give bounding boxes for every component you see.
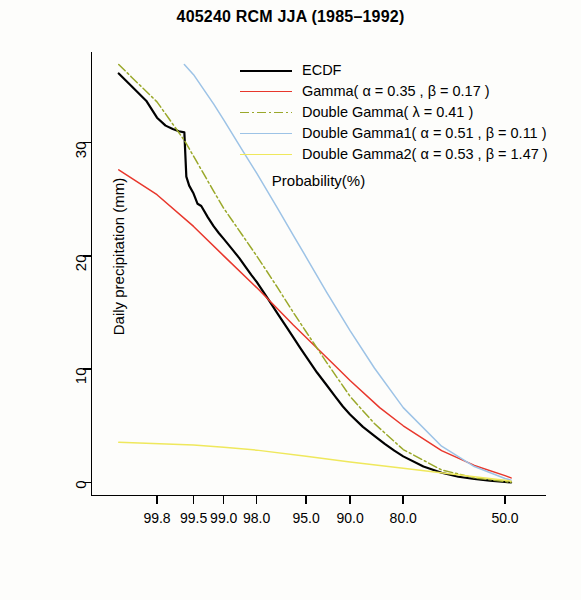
- y-tick-label: 20: [72, 254, 89, 294]
- x-tick-mark: [223, 496, 225, 504]
- x-tick-mark: [504, 496, 506, 504]
- legend-color-swatch: [240, 149, 292, 161]
- legend-label: Gamma( α = 0.35 , β = 0.17 ): [302, 81, 490, 102]
- chart-legend: ECDFGamma( α = 0.35 , β = 0.17 )Double G…: [240, 60, 548, 165]
- legend-label: ECDF: [302, 60, 341, 81]
- legend-item: Double Gamma( λ = 0.41 ): [240, 102, 548, 123]
- x-tick-label: 90.0: [320, 510, 380, 526]
- x-tick-mark: [256, 496, 258, 504]
- series-line: [119, 170, 511, 478]
- legend-label: Double Gamma2( α = 0.53 , β = 1.47 ): [302, 144, 548, 165]
- x-tick-mark: [193, 496, 195, 504]
- x-tick-mark: [156, 496, 158, 504]
- legend-color-swatch: [240, 128, 292, 140]
- plot-area: 99.899.599.098.095.090.080.050.0 0102030…: [91, 52, 546, 496]
- legend-item: Double Gamma2( α = 0.53 , β = 1.47 ): [240, 144, 548, 165]
- y-tick-label: 10: [72, 368, 89, 408]
- legend-label: Double Gamma( λ = 0.41 ): [302, 102, 473, 123]
- x-axis-label: Probability(%): [91, 172, 546, 189]
- x-tick-mark: [305, 496, 307, 504]
- legend-color-swatch: [240, 107, 292, 119]
- y-tick-label: 30: [72, 141, 89, 181]
- chart-container: 405240 RCM JJA (1985–1992) 99.899.599.09…: [0, 0, 581, 600]
- x-tick-mark: [402, 496, 404, 504]
- x-tick-label: 80.0: [373, 510, 433, 526]
- legend-item: Double Gamma1( α = 0.51 , β = 0.11 ): [240, 123, 548, 144]
- legend-color-swatch: [240, 65, 292, 77]
- y-axis-label: Daily precipitation (mm): [110, 57, 127, 457]
- x-tick-mark: [349, 496, 351, 504]
- chart-title: 405240 RCM JJA (1985–1992): [0, 8, 581, 26]
- legend-item: ECDF: [240, 60, 548, 81]
- x-tick-label: 50.0: [475, 510, 535, 526]
- y-tick-label: 0: [72, 481, 89, 521]
- legend-color-swatch: [240, 86, 292, 98]
- legend-item: Gamma( α = 0.35 , β = 0.17 ): [240, 81, 548, 102]
- legend-label: Double Gamma1( α = 0.51 , β = 0.11 ): [302, 123, 547, 144]
